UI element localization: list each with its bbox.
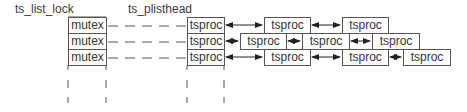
mutex-box: mutex: [68, 17, 107, 34]
tsproc-node: tsproc: [372, 33, 420, 50]
tsproc-node: tsproc: [403, 49, 451, 66]
tsproc-node: tsproc: [240, 33, 287, 50]
tsproc-node: tsproc: [302, 33, 350, 50]
head-tsproc-box: tsproc: [187, 17, 225, 34]
tsproc-node: tsproc: [264, 17, 311, 34]
mutex-box: mutex: [68, 33, 107, 50]
ts-plisthead-label: ts_plisthead: [128, 3, 192, 15]
mutex-box: mutex: [68, 49, 107, 66]
tsproc-node: tsproc: [342, 17, 389, 34]
tsproc-node: tsproc: [342, 49, 389, 66]
head-tsproc-box: tsproc: [187, 49, 225, 66]
ts-list-lock-label: ts_list_lock: [15, 3, 74, 15]
tsproc-node: tsproc: [264, 49, 311, 66]
head-tsproc-box: tsproc: [187, 33, 225, 50]
